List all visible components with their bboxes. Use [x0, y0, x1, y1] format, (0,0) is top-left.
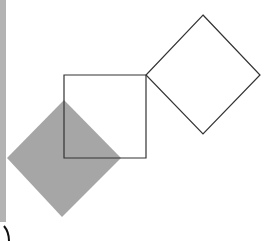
outline-diamond [146, 15, 260, 134]
black-arc-fragment [4, 226, 9, 241]
diagram-canvas [0, 0, 273, 241]
shapes-svg [0, 0, 273, 241]
